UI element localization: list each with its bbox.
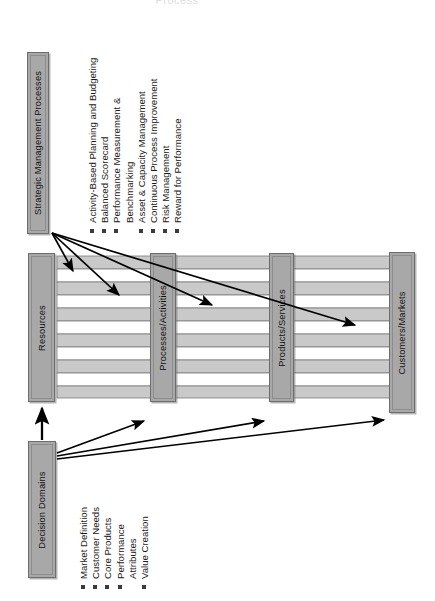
box-label-decision: Decision Domains [37,471,47,548]
bullet-icon [163,229,167,233]
strategic-items-list: Activity-Based Planning and Budgeting Ba… [87,58,185,233]
list-item: Balanced Scorecard [99,58,111,233]
list-item-continuation: Attributes [127,507,139,589]
list-item: Asset & Capacity Management [136,58,148,233]
list-item: Performance [115,507,127,589]
box-label-processes: Processes/Activities [158,285,168,371]
bullet-icon [102,229,106,233]
box-resources[interactable]: Resources [28,253,55,402]
box-processes-activities[interactable]: Processes/Activities [150,253,176,402]
bullet-icon [90,229,94,233]
bullet-icon [139,229,143,233]
decision-items-list: Market Definition Customer Needs Core Pr… [78,507,151,589]
box-label-strategic: Strategic Management Processes [33,71,43,215]
bullet-icon [151,229,155,233]
box-decision-domains[interactable]: Decision Domains [28,441,56,578]
bullet-icon [105,585,109,589]
box-products-services[interactable]: Products/Services [269,253,294,402]
box-customers-markets[interactable]: Customers/Markets [389,252,415,413]
bullet-icon [114,229,118,233]
list-item: Market Definition [78,507,90,589]
arrows-layer [0,0,435,601]
bullet-icon [93,585,97,589]
list-item: Continuous Process Improvement [148,58,160,233]
bullet-icon [81,585,85,589]
band-group [57,256,405,398]
list-item-continuation: Benchmarking [124,58,136,233]
box-label-customers: Customers/Markets [397,291,407,374]
diagram-canvas: Process Strategic Management Processes R… [0,0,435,601]
list-item: Customer Needs [90,507,102,589]
bullet-icon [118,585,122,589]
list-item: Value Creation [139,507,151,589]
bullet-spacer [127,229,131,233]
arrows-from-decision [42,408,384,459]
arrow-strategic-to-products [52,233,355,325]
list-item: Risk Management [160,58,172,233]
arrow-decision-to-products [57,421,264,456]
arrows-from-strategic [52,233,355,325]
arrow-decision-to-processes [57,421,144,453]
clipped-page-title: Process [122,0,232,4]
bullet-icon [142,585,146,589]
box-label-products: Products/Services [277,289,287,366]
bullet-icon [175,229,179,233]
list-item: Performance Measurement & [111,58,123,233]
arrow-strategic-to-resources [52,233,73,271]
box-strategic-management-processes[interactable]: Strategic Management Processes [27,52,49,234]
arrow-strategic-to-band2 [52,233,119,295]
list-item: Reward for Performance [172,58,184,233]
arrow-strategic-to-processes [52,233,212,305]
box-label-resources: Resources [37,305,47,351]
value-chain-bands-layer [0,0,435,601]
list-item: Core Products [102,507,114,589]
bullet-spacer [130,585,134,589]
arrow-decision-to-customers [57,420,384,459]
list-item: Activity-Based Planning and Budgeting [87,58,99,233]
